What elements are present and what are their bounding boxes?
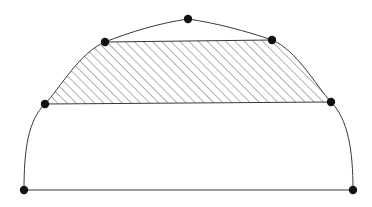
vertex-bottom-left: [20, 186, 28, 194]
geometry-figure: [0, 0, 372, 207]
vertex-left-mid: [41, 100, 49, 108]
figure-canvas: [0, 0, 372, 207]
vertex-upper-left: [101, 38, 109, 46]
lower-left-arc: [24, 104, 45, 190]
vertex-apex: [184, 15, 192, 23]
vertex-upper-right: [268, 36, 276, 44]
lower-right-arc: [331, 102, 353, 190]
vertex-bottom-right: [349, 186, 357, 194]
vertex-right-mid: [327, 98, 335, 106]
